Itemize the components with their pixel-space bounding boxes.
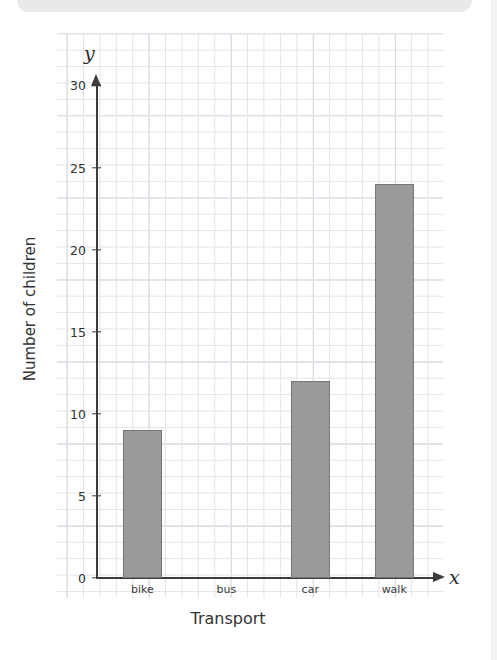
graph-paper-grid (57, 33, 443, 598)
x-axis-title: Transport (0, 609, 456, 628)
bar-chart-figure: y x 051015202530 bikebuscarwalk Transpor… (0, 0, 497, 660)
x-axis-letter: x (449, 566, 460, 588)
y-axis-title: Number of children (21, 209, 39, 409)
